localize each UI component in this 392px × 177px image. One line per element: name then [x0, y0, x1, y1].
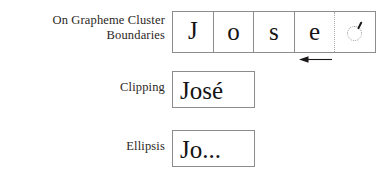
- grapheme-cell-4: e: [295, 12, 336, 52]
- clipping-example-box: José: [172, 71, 255, 108]
- grapheme-cluster-cell-strip: J o s e: [172, 11, 376, 53]
- combining-acute-accent-placeholder-icon: [347, 24, 364, 41]
- grapheme-cell-3-glyph: s: [269, 19, 279, 44]
- grapheme-cell-1-glyph: J: [188, 18, 198, 43]
- acute-accent-icon: [357, 21, 362, 29]
- grapheme-cell-2: o: [214, 12, 255, 52]
- grapheme-cell-4-glyph: e: [309, 19, 320, 44]
- grapheme-cell-2-glyph: o: [227, 19, 240, 44]
- grapheme-cell-5: [335, 12, 375, 52]
- row-label-clipping: Clipping: [6, 80, 165, 95]
- figure-truncation-modes: On Grapheme Cluster Boundaries J o s e C…: [0, 0, 392, 177]
- ellipsis-example-box: Jo...: [172, 130, 255, 167]
- row-label-ellipsis: Ellipsis: [6, 139, 165, 154]
- ellipsis-example-text: Jo...: [180, 136, 221, 161]
- row-label-grapheme-cluster-boundaries: On Grapheme Cluster Boundaries: [6, 13, 165, 43]
- grapheme-cell-1: J: [173, 12, 214, 52]
- clipping-example-text: José: [180, 77, 223, 102]
- grapheme-cell-3: s: [254, 12, 295, 52]
- arrow-left-icon: [299, 55, 332, 64]
